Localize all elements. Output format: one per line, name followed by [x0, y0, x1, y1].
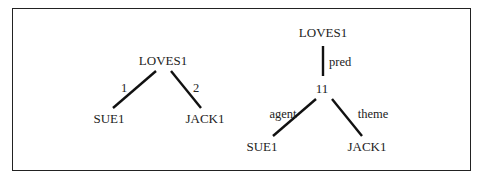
left-edge-label-1: 1: [121, 81, 127, 95]
tree-diagrams: LOVES1 1 2 SUE1 JACK1 LOVES1 pred 11 age…: [0, 0, 481, 178]
left-tree: LOVES1 1 2 SUE1 JACK1: [93, 53, 224, 126]
left-edge-label-2: 2: [193, 81, 199, 95]
left-child-jack: JACK1: [185, 111, 224, 126]
right-child-sue: SUE1: [246, 139, 277, 154]
left-edge-1: [113, 71, 156, 108]
right-tree: LOVES1 pred 11 agent theme SUE1 JACK1: [246, 25, 388, 154]
right-edge-label-pred: pred: [329, 55, 352, 69]
right-edge-label-theme: theme: [358, 107, 389, 121]
left-root-node: LOVES1: [139, 53, 187, 68]
left-child-sue: SUE1: [93, 111, 124, 126]
right-edge-label-agent: agent: [269, 107, 297, 121]
right-intermediate-node: 11: [316, 81, 329, 96]
right-child-jack: JACK1: [347, 139, 386, 154]
right-root-node: LOVES1: [299, 25, 347, 40]
